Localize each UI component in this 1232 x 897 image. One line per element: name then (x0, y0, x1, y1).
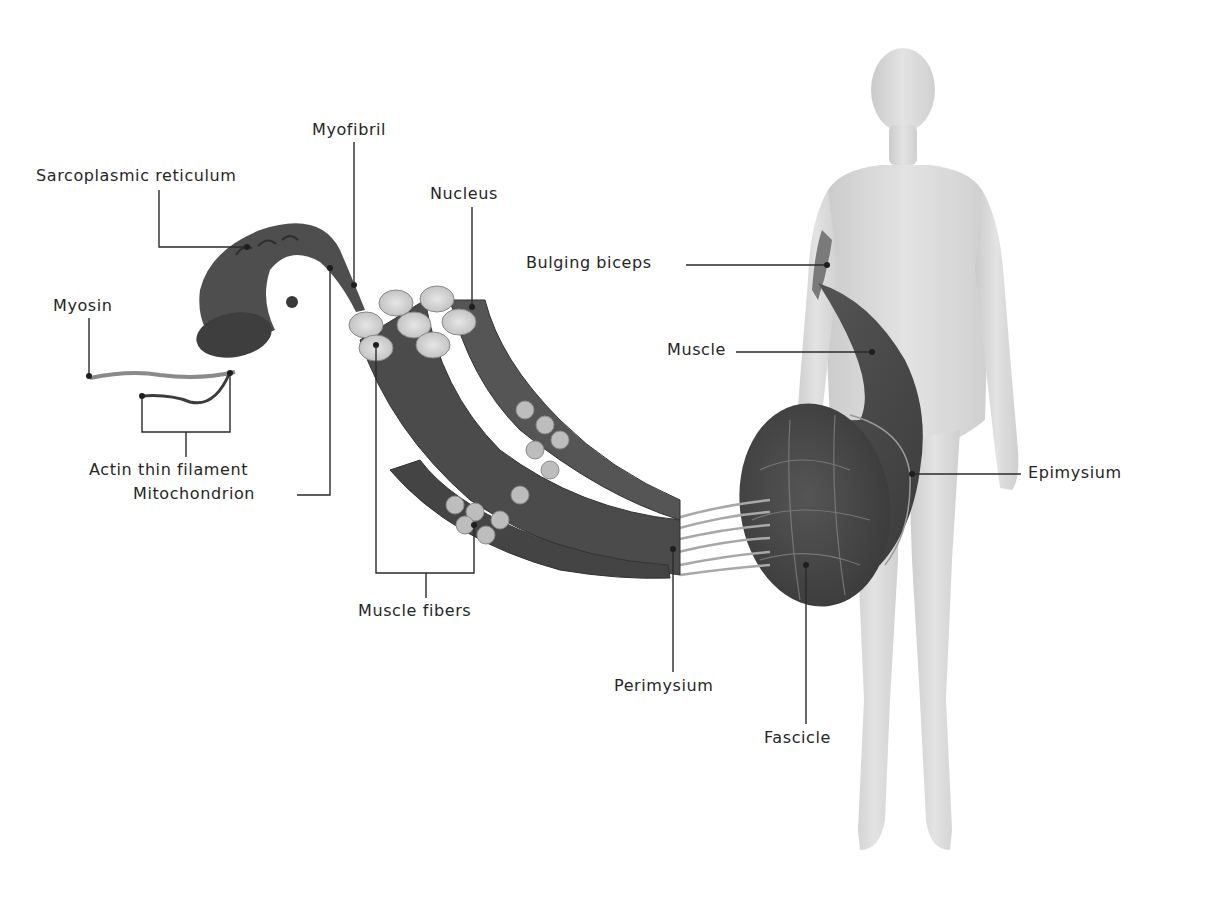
label-sarcoplasmic-reticulum: Sarcoplasmic reticulum (36, 168, 237, 184)
myofibril-tube (193, 223, 365, 363)
label-fascicle: Fascicle (764, 730, 831, 746)
label-muscle: Muscle (667, 342, 726, 358)
label-nucleus: Nucleus (430, 186, 498, 202)
label-actin-thin-filament: Actin thin filament (89, 462, 248, 478)
illustration (0, 0, 1232, 897)
muscle-anatomy-diagram: Myofibril Sarcoplasmic reticulum Nucleus… (0, 0, 1232, 897)
label-perimysium: Perimysium (614, 678, 714, 694)
label-bulging-biceps: Bulging biceps (526, 255, 652, 271)
label-muscle-fibers: Muscle fibers (358, 603, 471, 619)
label-mitochondrion: Mitochondrion (133, 486, 255, 502)
label-epimysium: Epimysium (1028, 465, 1122, 481)
muscle-fiber-bundle (360, 300, 680, 578)
label-myofibril: Myofibril (312, 122, 386, 138)
myosin-filament (90, 372, 235, 378)
label-myosin: Myosin (53, 298, 113, 314)
